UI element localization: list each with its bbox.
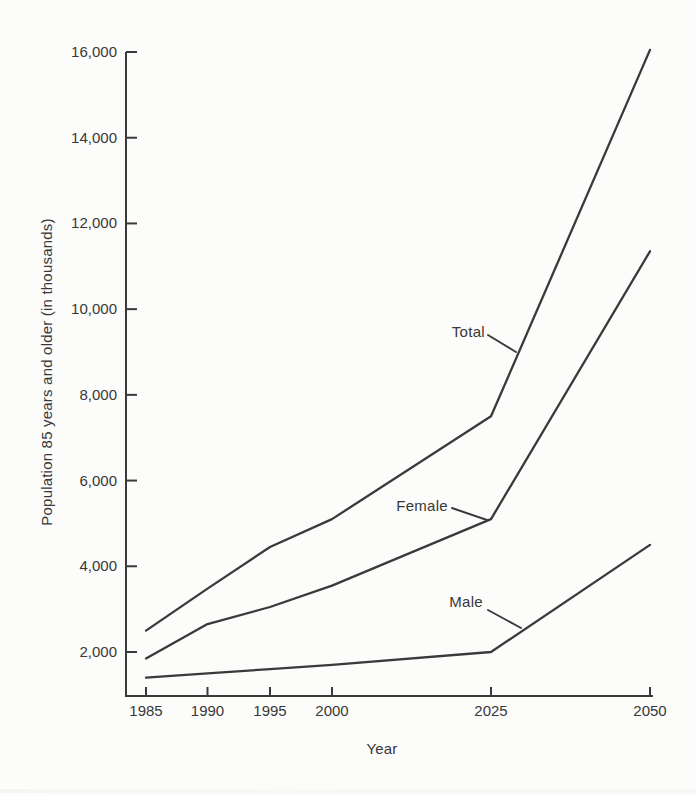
y-tick-label: 4,000: [79, 557, 117, 574]
male-line: [146, 545, 650, 678]
series-label-total: Total: [452, 323, 485, 340]
x-tick-label: 2025: [474, 702, 507, 719]
female-line: [146, 251, 650, 658]
plot-area: 2,0004,0006,0008,00010,00012,00014,00016…: [0, 0, 696, 796]
male-leader-line: [488, 610, 521, 628]
series-label-male: Male: [449, 593, 483, 610]
x-tick-label: 1990: [191, 702, 224, 719]
x-tick-label: 1995: [253, 702, 286, 719]
x-axis-title: Year: [366, 740, 397, 757]
y-axis-title: Population 85 years and older (in thousa…: [38, 218, 55, 525]
total-leader-line: [488, 335, 516, 352]
y-tick-label: 10,000: [71, 300, 117, 317]
series-label-female: Female: [396, 497, 448, 514]
y-tick-label: 6,000: [79, 472, 117, 489]
y-tick-label: 14,000: [71, 129, 117, 146]
scan-artifact: [0, 789, 696, 793]
y-tick-label: 12,000: [71, 214, 117, 231]
female-leader-line: [452, 508, 487, 520]
x-tick-label: 1985: [129, 702, 162, 719]
total-line: [146, 50, 650, 631]
scanned-chart-page: 2,0004,0006,0008,00010,00012,00014,00016…: [0, 0, 696, 796]
y-tick-label: 16,000: [71, 43, 117, 60]
y-tick-label: 8,000: [79, 386, 117, 403]
y-tick-label: 2,000: [79, 643, 117, 660]
x-tick-label: 2000: [315, 702, 348, 719]
x-tick-label: 2050: [633, 702, 666, 719]
